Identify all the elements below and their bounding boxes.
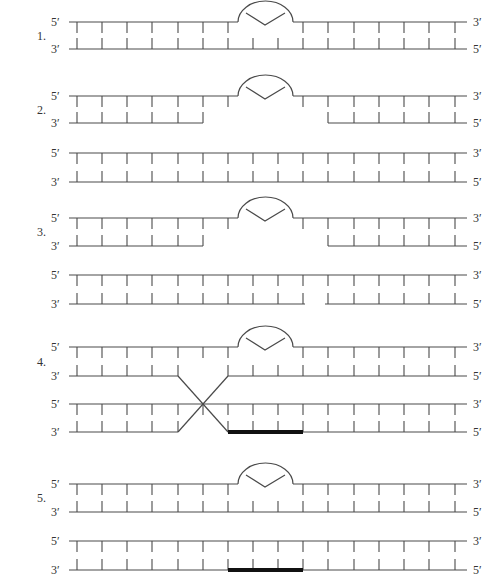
strand-label-left-bottom: 3′ (51, 175, 60, 189)
strand-label-right-top: 3′ (473, 89, 482, 103)
mismatch-bubble (238, 197, 293, 218)
dna-duplex: 5′3′3′5′ (51, 146, 482, 189)
strand-label-left-bottom: 3′ (51, 425, 60, 439)
strand-label-left-bottom: 3′ (51, 563, 60, 577)
strand-label-right-top: 3′ (473, 477, 482, 491)
strand-label-left-top: 5′ (51, 89, 60, 103)
step-5: 5.5′3′3′5′5′3′3′5′ (37, 463, 482, 577)
step-2: 2.5′3′3′5′5′3′3′5′ (37, 75, 482, 189)
strand-label-right-bottom: 5′ (473, 175, 482, 189)
strand-label-right-bottom: 5′ (473, 297, 482, 311)
step-4: 4.5′3′3′5′5′3′3′5′ (37, 326, 482, 439)
mismatch-bubble (238, 75, 293, 96)
strand-label-left-top: 5′ (51, 268, 60, 282)
step-1: 1.5′3′3′5′ (37, 1, 482, 56)
strand-label-left-top: 5′ (51, 534, 60, 548)
strand-label-left-top: 5′ (51, 146, 60, 160)
strand-label-right-bottom: 5′ (473, 425, 482, 439)
step-number: 4. (37, 355, 46, 369)
dna-duplex: 5′3′3′5′ (51, 75, 482, 130)
strand-label-right-bottom: 5′ (473, 116, 482, 130)
strand-label-left-bottom: 3′ (51, 369, 60, 383)
mismatch-bubble (238, 1, 293, 22)
dna-duplex: 5′3′3′5′ (51, 197, 482, 253)
mismatch-bubble (238, 463, 293, 484)
strand-label-left-top: 5′ (51, 397, 60, 411)
mismatch-bubble (238, 326, 293, 347)
strand-label-right-bottom: 5′ (473, 239, 482, 253)
mismatch-v (246, 13, 285, 25)
strand-label-right-bottom: 5′ (473, 563, 482, 577)
mismatch-v (246, 475, 285, 487)
strand-label-left-bottom: 3′ (51, 116, 60, 130)
dna-duplex: 5′3′3′5′ (51, 1, 482, 56)
strand-label-right-top: 3′ (473, 340, 482, 354)
step-number: 2. (37, 103, 46, 117)
strand-label-left-bottom: 3′ (51, 505, 60, 519)
strand-label-right-top: 3′ (473, 146, 482, 160)
dna-duplex: 5′3′3′5′ (51, 397, 482, 439)
strand-label-left-bottom: 3′ (51, 239, 60, 253)
strand-label-left-top: 5′ (51, 477, 60, 491)
strand-label-left-bottom: 3′ (51, 297, 60, 311)
strand-label-right-bottom: 5′ (473, 369, 482, 383)
strand-label-right-top: 3′ (473, 534, 482, 548)
strand-label-right-top: 3′ (473, 397, 482, 411)
strand-label-left-top: 5′ (51, 211, 60, 225)
strand-label-right-bottom: 5′ (473, 505, 482, 519)
step-number: 5. (37, 491, 46, 505)
strand-label-right-bottom: 5′ (473, 42, 482, 56)
mismatch-v (246, 87, 285, 99)
strand-label-left-bottom: 3′ (51, 42, 60, 56)
strand-label-right-top: 3′ (473, 211, 482, 225)
dna-duplex: 5′3′3′5′ (51, 326, 482, 383)
strand-label-right-top: 3′ (473, 268, 482, 282)
dna-duplex: 5′3′3′5′ (51, 463, 482, 519)
strand-label-right-top: 3′ (473, 15, 482, 29)
step-number: 3. (37, 225, 46, 239)
dna-duplex: 5′3′3′5′ (51, 268, 482, 311)
dna-duplex: 5′3′3′5′ (51, 534, 482, 577)
mismatch-v (246, 209, 285, 221)
step-3: 3.5′3′3′5′5′3′3′5′ (37, 197, 482, 311)
strand-label-left-top: 5′ (51, 340, 60, 354)
strand-label-left-top: 5′ (51, 15, 60, 29)
mismatch-v (246, 338, 285, 350)
dna-repair-diagram: 1.5′3′3′5′2.5′3′3′5′5′3′3′5′3.5′3′3′5′5′… (0, 0, 491, 587)
step-number: 1. (37, 29, 46, 43)
